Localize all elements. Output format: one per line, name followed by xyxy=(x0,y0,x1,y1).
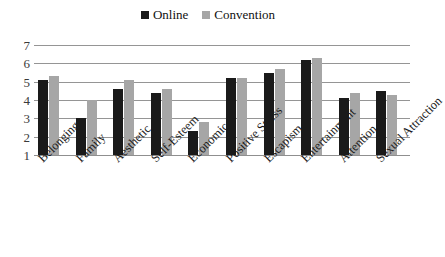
y-axis: 7654321 xyxy=(0,45,30,155)
y-tick-label: 6 xyxy=(4,57,30,70)
legend-entry: Convention xyxy=(202,8,275,21)
y-tick-label: 2 xyxy=(4,131,30,144)
x-axis-labels: BelongingFamilyAestheticSelf-EsteemEcono… xyxy=(34,156,410,257)
square-marker-gray-icon xyxy=(202,11,210,19)
chart-legend: OnlineConvention xyxy=(0,8,416,21)
y-tick-label: 3 xyxy=(4,112,30,125)
square-marker-dark-icon xyxy=(141,11,149,19)
y-tick-label: 1 xyxy=(4,149,30,162)
legend-label: Convention xyxy=(214,8,275,21)
legend-label: Online xyxy=(153,8,188,21)
legend-entry: Online xyxy=(141,8,188,21)
y-tick-label: 5 xyxy=(4,76,30,89)
y-tick-label: 7 xyxy=(4,39,30,52)
y-tick-label: 4 xyxy=(4,94,30,107)
bar xyxy=(301,60,311,155)
